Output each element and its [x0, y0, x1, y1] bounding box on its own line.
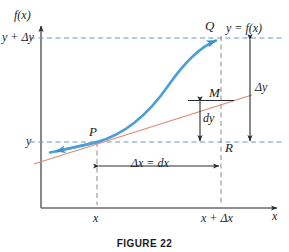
y-axis-label: f(x): [14, 9, 31, 21]
point-label-q: Q: [205, 19, 214, 32]
point-label-m: M: [209, 86, 220, 99]
x-tick-label-x-plus-delta-x: x + Δx: [201, 212, 233, 224]
x-axis-label: x: [272, 210, 277, 222]
y-tick-label-y-plus-delta-y: y + Δy: [2, 31, 34, 43]
guide-lines: [30, 38, 283, 142]
figure-graphic: [0, 0, 289, 252]
y-tick-label-y: y: [26, 135, 31, 147]
delta-y-label: Δy: [255, 81, 267, 93]
point-label-r: R: [225, 141, 233, 154]
delta-x-label: Δx = dx: [131, 157, 169, 169]
x-tick-label-x: x: [93, 212, 98, 224]
figure-container: f(x) x y + Δy y x x + Δx P Q M R y = f(x…: [0, 0, 289, 252]
dy-label: dy: [203, 112, 214, 124]
point-label-p: P: [89, 125, 97, 138]
tangent-line: [34, 95, 252, 164]
function-curve: [50, 41, 216, 153]
curve-equation-label: y = f(x): [226, 22, 262, 34]
axis-lines: [41, 26, 277, 208]
figure-caption: FIGURE 22: [0, 238, 289, 249]
